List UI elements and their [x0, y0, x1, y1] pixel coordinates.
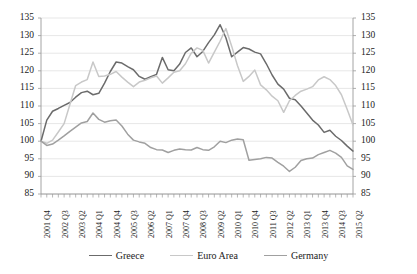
series-line-greece	[41, 25, 353, 151]
y-tick-label-right: 100	[361, 136, 389, 146]
legend-swatch-icon	[89, 255, 112, 256]
x-tick-label: 2010 Q1	[235, 210, 243, 238]
y-tick-label-right: 125	[361, 48, 389, 58]
y-tick-label-left: 115	[6, 83, 34, 93]
plot-area	[41, 18, 353, 194]
x-tick-label: 2006 Q2	[148, 210, 156, 238]
x-tick-label: 2003 Q2	[79, 210, 87, 238]
legend-swatch-icon	[264, 255, 287, 256]
legend-label: Euro Area	[197, 250, 238, 261]
y-tick-label-left: 105	[6, 119, 34, 129]
legend-item-euro-area[interactable]: Euro Area	[170, 250, 238, 261]
x-tick-label: 2007 Q4	[183, 210, 191, 238]
x-tick-label: 2008 Q3	[200, 210, 208, 238]
legend-item-greece[interactable]: Greece	[89, 250, 144, 261]
y-tick-label-right: 120	[361, 66, 389, 76]
x-tick-label: 2001 Q4	[44, 210, 52, 238]
y-tick-label-left: 120	[6, 66, 34, 76]
y-tick-label-left: 85	[6, 189, 34, 199]
y-tick-label-right: 110	[361, 101, 389, 111]
x-tick-label: 2004 Q4	[114, 210, 122, 238]
x-tick-label: 2002 Q3	[62, 210, 70, 238]
y-tick-label-right: 85	[361, 189, 389, 199]
y-tick-label-right: 130	[361, 31, 389, 41]
legend-swatch-icon	[170, 255, 193, 256]
legend-label: Germany	[291, 250, 328, 261]
y-tick-label-right: 105	[361, 119, 389, 129]
x-tick-label: 2007 Q1	[166, 210, 174, 238]
legend-label: Greece	[116, 250, 144, 261]
y-tick-label-left: 135	[6, 13, 34, 23]
y-tick-label-left: 130	[6, 31, 34, 41]
x-tick-label: 2011 Q3	[270, 211, 278, 238]
x-tick-label: 2012 Q2	[287, 210, 295, 238]
series-line-euro-area	[41, 29, 353, 144]
y-tick-label-right: 135	[361, 13, 389, 23]
y-tick-label-left: 125	[6, 48, 34, 58]
line-chart: 859095100105110115120125130135 859095100…	[0, 0, 417, 274]
x-tick-label: 2005 Q3	[131, 210, 139, 238]
chart-legend: GreeceEuro AreaGermany	[0, 250, 417, 261]
y-tick-label-right: 90	[361, 171, 389, 181]
y-tick-label-left: 100	[6, 136, 34, 146]
x-tick-label: 2014 Q3	[339, 210, 347, 238]
x-tick-label: 2010 Q4	[252, 210, 260, 238]
x-tick-label: 2013 Q4	[322, 210, 330, 238]
x-tick-label: 2013 Q1	[304, 210, 312, 238]
y-tick-label-left: 110	[6, 101, 34, 111]
y-tick-label-right: 95	[361, 154, 389, 164]
y-tick-label-left: 90	[6, 171, 34, 181]
x-tick-label: 2015 Q2	[356, 210, 364, 238]
x-tick-label: 2004 Q1	[96, 210, 104, 238]
y-tick-label-left: 95	[6, 154, 34, 164]
y-tick-label-right: 115	[361, 83, 389, 93]
legend-item-germany[interactable]: Germany	[264, 250, 328, 261]
x-tick-label: 2009 Q2	[218, 210, 226, 238]
series-line-germany	[41, 113, 353, 171]
